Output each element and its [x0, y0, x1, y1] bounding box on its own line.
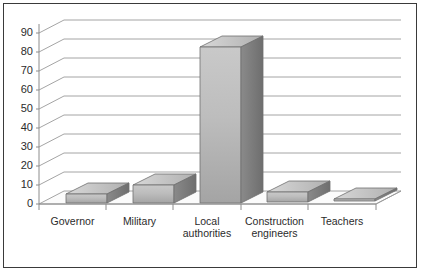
y-tick-label-60: 60: [0, 84, 33, 95]
bar-local-authorities[interactable]: [200, 36, 263, 203]
y-tick-label-20: 20: [0, 160, 33, 171]
chart-frame: 90 80 70 60 50 40 30 20 10 0 Governor Mi…: [3, 3, 417, 268]
y-tick-label-50: 50: [0, 103, 33, 114]
x-label-construction-engineers: Construction engineers: [241, 215, 308, 239]
y-tick-label-10: 10: [0, 179, 33, 190]
y-tick-label-30: 30: [0, 141, 33, 152]
y-tick-label-80: 80: [0, 46, 33, 57]
x-label-local-authorities-line-2: authorities: [183, 227, 231, 239]
x-tick-marks: [39, 204, 376, 210]
y-tick-label-90: 90: [0, 27, 33, 38]
x-label-governor-line-1: Governor: [51, 215, 95, 227]
x-label-construction-engineers-line-2: engineers: [251, 227, 297, 239]
y-tick-label-0: 0: [0, 198, 33, 209]
bar-chart-plot: 90 80 70 60 50 40 30 20 10 0 Governor Mi…: [4, 4, 418, 269]
y-tick-label-40: 40: [0, 122, 33, 133]
y-tick-label-70: 70: [0, 65, 33, 76]
x-label-local-authorities-line-1: Local: [194, 215, 219, 227]
x-label-local-authorities: Local authorities: [173, 215, 241, 239]
x-label-teachers-line-1: Teachers: [321, 215, 364, 227]
x-label-military-line-1: Military: [123, 215, 156, 227]
x-label-governor: Governor: [39, 215, 106, 227]
x-label-teachers: Teachers: [308, 215, 376, 227]
bar-teachers[interactable]: [334, 188, 397, 201]
x-label-construction-engineers-line-1: Construction: [245, 215, 304, 227]
x-label-military: Military: [106, 215, 173, 227]
